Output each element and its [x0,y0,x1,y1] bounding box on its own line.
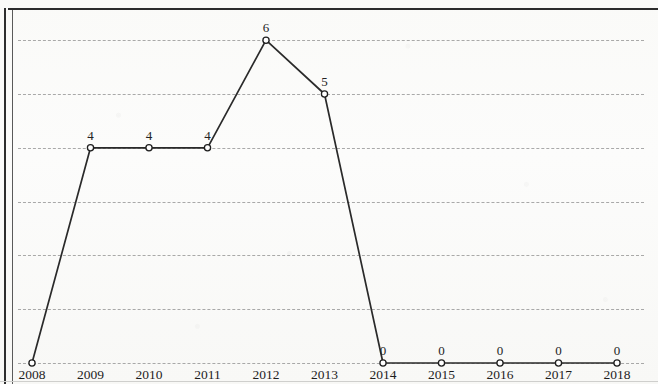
x-axis-tick-label: 2012 [253,368,280,382]
data-point-label: 0 [555,344,562,357]
data-point[interactable] [87,145,93,151]
x-axis-tick-label: 2010 [136,368,163,382]
data-point-label: 0 [614,344,621,357]
data-point[interactable] [204,145,210,151]
data-point-label: 0 [438,344,445,357]
data-point-label: 4 [146,129,153,142]
x-axis-tick-label: 2011 [194,368,221,382]
x-axis-tick-label: 2017 [545,368,572,382]
data-point[interactable] [614,360,620,366]
data-point-label: 4 [204,129,211,142]
data-point-label: 0 [497,344,504,357]
x-axis-tick-label: 2014 [370,368,397,382]
data-point[interactable] [321,91,327,97]
data-point[interactable] [263,37,269,43]
data-point[interactable] [29,360,35,366]
data-point-label: 5 [321,75,328,88]
scanned-page: 4446500000 20082009201020112012201320142… [0,0,658,384]
data-point-label: 4 [87,129,94,142]
x-axis-tick-label: 2008 [19,368,46,382]
data-point-label: 6 [263,21,270,34]
x-axis-tick-label: 2016 [487,368,514,382]
x-axis-tick-label: 2015 [428,368,455,382]
x-axis-tick-label: 2013 [311,368,338,382]
data-point[interactable] [438,360,444,366]
line-chart: 4446500000 20082009201020112012201320142… [0,0,658,384]
data-point[interactable] [497,360,503,366]
series-group [0,0,658,384]
x-axis-tick-label: 2009 [77,368,104,382]
data-point[interactable] [380,360,386,366]
x-axis-tick-label: 2018 [604,368,631,382]
data-point[interactable] [555,360,561,366]
data-point-label: 0 [380,344,387,357]
data-point[interactable] [146,145,152,151]
